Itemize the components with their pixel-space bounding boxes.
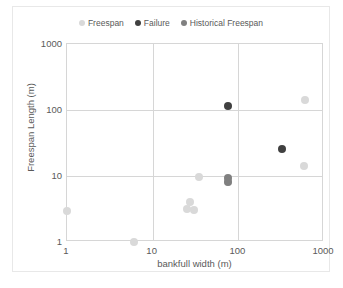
- gridline-vertical: [153, 44, 154, 240]
- data-point: [224, 102, 232, 110]
- legend-marker-icon: [79, 20, 85, 26]
- chart-container: FreespanFailureHistorical Freespan 10001…: [12, 6, 330, 272]
- data-point: [63, 207, 71, 215]
- legend-entry[interactable]: Historical Freespan: [181, 19, 263, 28]
- legend-entry[interactable]: Failure: [135, 19, 170, 28]
- plot-area: [66, 43, 323, 241]
- data-point: [190, 206, 198, 214]
- y-axis-tick-label: 1000: [41, 38, 62, 49]
- data-point: [301, 96, 309, 104]
- legend-marker-icon: [181, 20, 187, 26]
- y-axis-tick-label: 100: [46, 104, 62, 115]
- data-point: [278, 145, 286, 153]
- x-axis-tick-label: 10: [146, 245, 157, 256]
- gridline-horizontal: [67, 110, 322, 111]
- y-axis-tick-label: 1: [57, 236, 62, 247]
- x-axis-tick-labels: 1101001000: [66, 245, 323, 259]
- legend-marker-icon: [135, 20, 141, 26]
- x-axis-title: bankfull width (m): [66, 258, 323, 269]
- chart-legend: FreespanFailureHistorical Freespan: [13, 19, 329, 28]
- legend-entry-label: Failure: [144, 19, 170, 28]
- data-point: [224, 178, 232, 186]
- legend-entry[interactable]: Freespan: [79, 19, 124, 28]
- legend-entry-label: Historical Freespan: [190, 19, 263, 28]
- y-axis-title: Freespan Length (m): [25, 48, 36, 208]
- x-axis-tick-label: 1: [63, 245, 68, 256]
- y-axis-tick-label: 10: [51, 170, 62, 181]
- legend-entry-label: Freespan: [88, 19, 124, 28]
- gridline-vertical: [238, 44, 239, 240]
- data-point: [195, 173, 203, 181]
- data-point: [300, 162, 308, 170]
- x-axis-tick-label: 1000: [312, 245, 333, 256]
- x-axis-tick-label: 100: [229, 245, 245, 256]
